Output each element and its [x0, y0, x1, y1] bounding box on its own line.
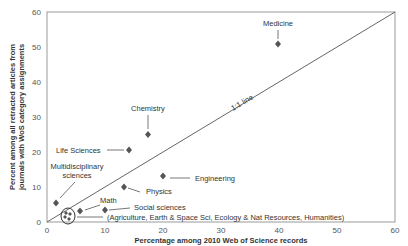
point-math: Math [77, 196, 117, 215]
diamond-marker [68, 212, 72, 216]
x-tick: 30 [217, 226, 226, 235]
diamond-marker [160, 173, 166, 180]
point-chemistry: Chemistry [131, 104, 165, 138]
label-math: Math [100, 196, 117, 205]
diamond-marker [67, 217, 71, 221]
y-tick: 60 [32, 8, 41, 17]
diamond-marker [145, 131, 151, 138]
diamond-marker [77, 208, 83, 215]
y-axis-title-line1: Percent among all retracted articles fro… [8, 44, 17, 190]
diamond-marker [63, 215, 67, 219]
diamond-marker [53, 200, 59, 207]
scatter-chart: 0 10 20 30 40 50 60 0 10 20 30 40 50 60 … [0, 0, 408, 246]
x-tick: 10 [101, 226, 110, 235]
diamond-marker [121, 184, 127, 191]
x-tick: 40 [275, 226, 284, 235]
label-life-sciences: Life Sciences [56, 146, 101, 155]
y-axis: 0 10 20 30 40 50 60 [32, 8, 41, 227]
x-tick: 60 [391, 226, 400, 235]
x-axis: 0 10 20 30 40 50 60 [45, 226, 400, 235]
label-chemistry: Chemistry [131, 104, 165, 113]
y-tick: 40 [32, 78, 41, 87]
y-tick: 0 [37, 218, 42, 227]
diamond-marker [126, 147, 132, 154]
label-physics: Physics [146, 187, 172, 196]
label-multidisciplinary-1: Multidisciplinary [51, 162, 104, 171]
point-physics: Physics [121, 184, 172, 197]
y-tick: 50 [32, 43, 41, 52]
x-tick: 0 [45, 226, 50, 235]
label-engineering: Engineering [195, 174, 235, 183]
x-axis-title: Percentage among 2010 Web of Science rec… [135, 236, 308, 245]
label-social-sciences: Social sciences [134, 203, 186, 212]
y-tick: 10 [32, 183, 41, 192]
y-tick: 20 [32, 148, 41, 157]
point-engineering: Engineering [160, 173, 235, 184]
label-multidisciplinary-2: sciences [62, 171, 91, 180]
point-medicine: Medicine [263, 19, 293, 48]
one-to-one-label: 1:1 line [229, 93, 254, 113]
y-tick: 30 [32, 113, 41, 122]
x-tick: 50 [333, 226, 342, 235]
label-medicine: Medicine [263, 19, 293, 28]
y-axis-title-line2: journals with WoS category assignments [17, 44, 26, 191]
point-life-sciences: Life Sciences [56, 146, 132, 155]
diamond-marker [275, 41, 281, 48]
x-tick: 20 [159, 226, 168, 235]
point-multidisciplinary: Multidisciplinary sciences [51, 162, 104, 207]
label-cluster: (Agriculture, Earth & Space Sci, Ecology… [107, 213, 345, 222]
one-to-one-line [47, 12, 395, 222]
